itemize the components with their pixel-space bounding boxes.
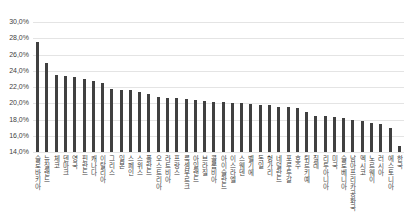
bar <box>92 81 95 153</box>
gridline <box>33 71 404 72</box>
gridline <box>33 87 404 88</box>
bar <box>268 105 271 152</box>
bar <box>83 79 86 152</box>
bar <box>120 90 123 152</box>
bar-chart: 30,0%28,0%26,0%24,0%22,0%20,0%18,0%16,0%… <box>0 0 406 216</box>
bar <box>379 124 382 152</box>
gridline <box>33 103 404 104</box>
bar <box>277 107 280 153</box>
gridline <box>33 38 404 39</box>
bar <box>212 102 215 152</box>
bar <box>36 42 39 152</box>
y-axis-tick-label: 26,0% <box>0 51 29 59</box>
bar <box>314 116 317 152</box>
bar <box>333 117 336 152</box>
y-axis-tick-label: 28,0% <box>0 34 29 42</box>
bar <box>203 101 206 152</box>
country-label: 한국 <box>395 155 404 169</box>
bar <box>240 103 243 152</box>
bar <box>249 104 252 152</box>
bar <box>166 98 169 152</box>
gridline <box>33 120 404 121</box>
y-axis-tick-label: 22,0% <box>0 83 29 91</box>
gridline <box>33 55 404 56</box>
bar <box>147 94 150 152</box>
bar <box>110 89 113 152</box>
gridline <box>33 22 404 23</box>
bar <box>138 92 141 152</box>
y-axis-tick-label: 14,0% <box>0 148 29 156</box>
bar <box>64 76 67 152</box>
bar <box>45 63 48 152</box>
bar <box>342 118 345 152</box>
bar <box>101 83 104 152</box>
bar <box>351 120 354 153</box>
bar <box>55 75 58 152</box>
bar <box>259 105 262 152</box>
y-axis-tick-label: 30,0% <box>0 18 29 26</box>
y-axis-tick-label: 18,0% <box>0 116 29 124</box>
bar <box>185 99 188 152</box>
bar <box>296 108 299 152</box>
gridline <box>33 152 404 153</box>
bar <box>231 103 234 152</box>
bar <box>175 98 178 152</box>
bar <box>389 128 392 152</box>
y-axis-tick-label: 24,0% <box>0 67 29 75</box>
x-axis-tick-label: 한국 <box>394 155 405 215</box>
gridline <box>33 136 404 137</box>
bar <box>361 121 364 152</box>
bar <box>398 146 401 153</box>
bar <box>370 123 373 152</box>
bar <box>194 100 197 152</box>
bar <box>287 107 290 152</box>
bar <box>324 116 327 152</box>
bar <box>73 77 76 152</box>
bar <box>129 90 132 152</box>
y-axis-tick-label: 20,0% <box>0 99 29 107</box>
bar <box>157 97 160 152</box>
bar <box>305 112 308 152</box>
bar <box>222 102 225 152</box>
y-axis-tick-label: 16,0% <box>0 132 29 140</box>
